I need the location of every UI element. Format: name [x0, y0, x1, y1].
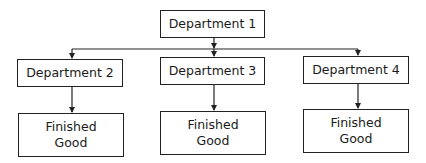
finished-good-3-line1: Finished: [330, 115, 381, 131]
diagram-canvas: Department 1 Department 2 Department 3 D…: [0, 0, 426, 163]
department-4-label: Department 4: [312, 62, 400, 78]
department-1-label: Department 1: [169, 16, 257, 32]
finished-good-box-3: Finished Good: [303, 109, 409, 153]
department-3-box: Department 3: [160, 57, 265, 85]
department-3-label: Department 3: [169, 63, 257, 79]
finished-good-2-line1: Finished: [187, 117, 238, 133]
finished-good-1-line1: Finished: [45, 119, 96, 135]
finished-good-1-line2: Good: [55, 135, 88, 151]
finished-good-box-2: Finished Good: [160, 111, 266, 155]
finished-good-3-line2: Good: [340, 131, 373, 147]
department-1-box: Department 1: [160, 10, 265, 38]
finished-good-2-line2: Good: [197, 133, 230, 149]
department-2-box: Department 2: [17, 59, 123, 87]
department-2-label: Department 2: [26, 65, 114, 81]
department-4-box: Department 4: [303, 56, 409, 84]
finished-good-box-1: Finished Good: [18, 113, 124, 157]
